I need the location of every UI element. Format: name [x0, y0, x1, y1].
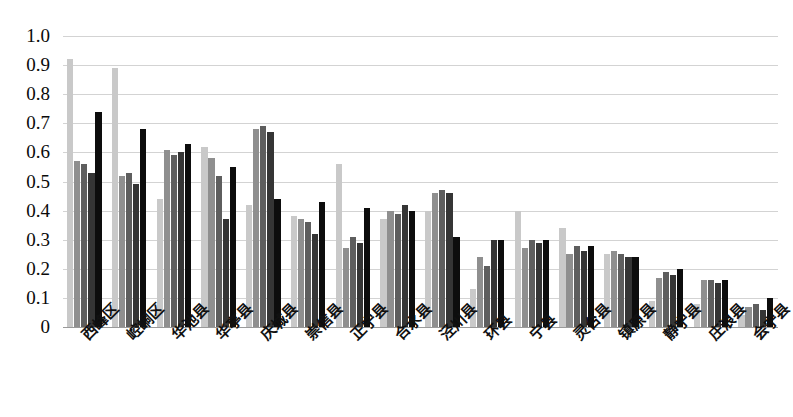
y-axis-tick-label: 0.8	[26, 84, 50, 103]
bar	[164, 150, 170, 328]
bar	[491, 240, 497, 327]
bar	[618, 254, 624, 327]
bar-group	[107, 36, 152, 327]
bar	[477, 257, 483, 327]
bar	[201, 147, 207, 327]
bar-group	[241, 36, 286, 327]
bar	[133, 184, 139, 327]
bar	[663, 272, 669, 327]
bar	[230, 167, 236, 327]
y-axis-tick-label: 0.1	[26, 288, 50, 307]
bar	[216, 176, 222, 327]
bar	[305, 222, 311, 327]
bar	[357, 243, 363, 327]
bar	[559, 228, 565, 327]
y-axis-tick-label: 0.6	[26, 142, 50, 161]
bar	[312, 234, 318, 327]
bar-group	[375, 36, 420, 327]
bar-group	[152, 36, 197, 327]
bar	[611, 251, 617, 327]
bar	[566, 254, 572, 327]
bar	[140, 129, 146, 327]
bar	[260, 126, 266, 327]
y-axis-line	[62, 36, 63, 328]
x-axis-labels: 西峰区崆峒区华池县华亭县庆城县崇信县正宁县合水县泾川县环县宁县灵台县镇原县静宁县…	[62, 328, 778, 417]
bar	[574, 246, 580, 327]
bar-group	[62, 36, 107, 327]
bar	[350, 237, 356, 327]
bar	[88, 173, 94, 327]
bar	[253, 129, 259, 327]
bar	[484, 266, 490, 327]
bar-groups	[62, 36, 778, 327]
bar-group	[510, 36, 555, 327]
bar-group	[554, 36, 599, 327]
bar-group	[465, 36, 510, 327]
bar	[185, 144, 191, 327]
bar	[432, 193, 438, 327]
bar	[701, 280, 707, 327]
bar-group	[420, 36, 465, 327]
bar-group	[331, 36, 376, 327]
y-axis-labels: 1.00.90.80.70.60.50.40.30.20.10	[0, 0, 62, 417]
bar	[515, 211, 521, 327]
bar	[522, 248, 528, 327]
bar-group	[689, 36, 734, 327]
bar	[95, 112, 101, 327]
bar	[402, 205, 408, 327]
bar	[208, 158, 214, 327]
bar	[126, 173, 132, 327]
bar	[171, 155, 177, 327]
bar	[223, 219, 229, 327]
y-axis-tick-label: 0.3	[26, 230, 50, 249]
y-axis-tick-label: 0	[41, 317, 51, 336]
y-axis-tick-label: 0.2	[26, 259, 50, 278]
bar-group	[286, 36, 331, 327]
bar	[708, 280, 714, 327]
y-axis-tick-label: 1.0	[26, 26, 50, 45]
bar-group	[644, 36, 689, 327]
y-axis-tick-label: 0.5	[26, 172, 50, 191]
y-axis-tick-label: 0.4	[26, 201, 50, 220]
bar	[112, 68, 118, 327]
bar	[267, 132, 273, 327]
bar	[119, 176, 125, 327]
plot-area	[62, 36, 778, 327]
y-axis-tick-label: 0.7	[26, 113, 50, 132]
bar	[178, 152, 184, 327]
bar	[67, 59, 73, 327]
bar	[529, 240, 535, 327]
bar-chart: 1.00.90.80.70.60.50.40.30.20.10 西峰区崆峒区华池…	[0, 0, 793, 417]
bar	[536, 243, 542, 327]
bar	[81, 164, 87, 327]
y-axis-tick-label: 0.9	[26, 55, 50, 74]
bar-group	[599, 36, 644, 327]
bar	[74, 161, 80, 327]
bar-group	[196, 36, 241, 327]
bar	[656, 278, 662, 327]
bar	[446, 193, 452, 327]
bar-group	[733, 36, 778, 327]
bar	[395, 214, 401, 327]
bar	[439, 190, 445, 327]
